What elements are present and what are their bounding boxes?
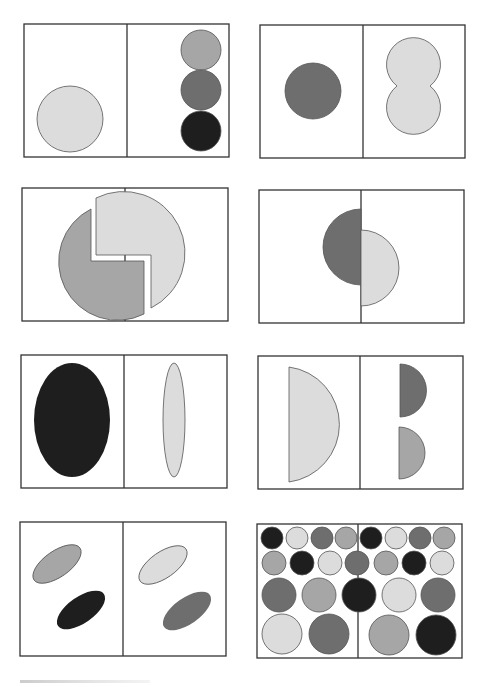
panel-5 <box>21 355 227 488</box>
mid-half-disc <box>399 427 425 479</box>
dark-ellipse <box>34 363 110 477</box>
panel-7 <box>20 522 226 656</box>
panel-4 <box>259 190 464 323</box>
dark-tilted-ellipse <box>51 583 112 636</box>
darkmid-semicircle <box>323 209 361 285</box>
panel-8 <box>257 524 462 658</box>
light-half-disc <box>289 367 339 482</box>
darkmid-tilted-ellipse <box>157 584 218 637</box>
figure-canvas <box>0 0 481 687</box>
footer-text <box>20 680 150 683</box>
dark-circle <box>181 111 221 151</box>
darkmid-half-disc <box>400 364 427 417</box>
mid-circle <box>181 30 221 70</box>
light-tilted-ellipse <box>133 538 194 591</box>
darkmid-circle <box>181 70 221 110</box>
figure-eight-shape <box>387 38 441 135</box>
light-semicircle <box>361 230 399 306</box>
mid-tilted-ellipse <box>27 537 88 590</box>
light-thin-ellipse <box>163 363 185 477</box>
darkmid-circle <box>285 63 341 119</box>
light-circle <box>37 86 103 152</box>
panel-6 <box>258 356 463 489</box>
panel-3 <box>22 188 228 321</box>
panel-2 <box>260 25 465 158</box>
panel-1 <box>24 24 229 157</box>
